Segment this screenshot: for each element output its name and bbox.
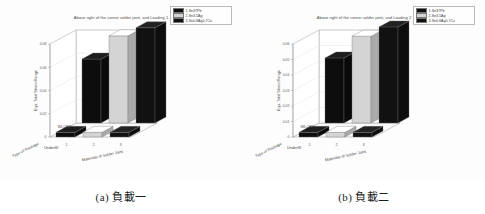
x-axis-label: Materials of Solder Joint — [324, 149, 367, 163]
z-axis-label: Type of Package — [254, 141, 282, 159]
chart-panel-b: Above right of the corner solder joint, … — [243, 0, 485, 178]
x-axis-label: Materials of Solder Joint — [81, 149, 124, 163]
chart-panel-a: Above right of the corner solder joint, … — [0, 0, 242, 178]
bar-3d — [109, 30, 139, 123]
caption-a: (a) 負載一 — [0, 188, 242, 204]
row-category-label: WLCSP — [300, 125, 314, 129]
caption-a-prefix: (a) — [96, 191, 109, 203]
y-tick-label: 0.01 — [283, 120, 290, 124]
y-axis-label: Equ. Total Strain Range — [276, 70, 281, 111]
y-tick-label: 0.05 — [283, 58, 290, 62]
plot-area-a: Above right of the corner solder joint, … — [0, 0, 242, 178]
bar-3d — [136, 22, 166, 123]
caption-b-prefix: (b) — [338, 191, 352, 203]
y-tick-label: 0.02 — [40, 112, 47, 116]
z-axis-label: Type of Package — [11, 141, 39, 159]
y-tick-label: 0.04 — [283, 73, 290, 77]
x-tick-label: 1 — [308, 143, 310, 147]
figure-captions-row: (a) 負載一 (b) 負載二 — [0, 178, 485, 214]
figure-two-panel-bar3: Above right of the corner solder joint, … — [0, 0, 485, 214]
bar-3d — [379, 21, 409, 123]
x-tick-label: 2 — [92, 143, 94, 147]
y-tick-label: 0.08 — [40, 42, 47, 46]
chart-geometry: 00.020.040.060.08Equ. Total Strain Range… — [11, 22, 166, 163]
y-tick-label: 0.04 — [40, 89, 47, 93]
bar-3d — [352, 30, 382, 123]
bar-3d — [325, 52, 355, 123]
row-category-label: Underfill — [44, 146, 58, 150]
bar-3d — [82, 53, 112, 123]
bar3-svg-b: 00.010.020.030.040.050.06Equ. Total Stra… — [243, 0, 485, 178]
caption-b: (b) 負載二 — [243, 188, 485, 204]
caption-a-text: 負載一 — [112, 191, 146, 204]
x-tick-label: 3 — [119, 143, 121, 147]
chart-geometry: 00.010.020.030.040.050.06Equ. Total Stra… — [254, 21, 409, 162]
y-tick-label: 0.02 — [283, 104, 290, 108]
row-category-label: Underfill — [287, 146, 301, 150]
bar3-scene-a: 00.020.040.060.08Equ. Total Strain Range… — [0, 0, 242, 178]
x-tick-label: 2 — [335, 143, 337, 147]
row-category-label: WLCSP — [57, 125, 71, 129]
figure-panels-row: Above right of the corner solder joint, … — [0, 0, 485, 178]
bar3-svg-a: 00.020.040.060.08Equ. Total Strain Range… — [0, 0, 242, 178]
y-tick-label: 0 — [45, 135, 47, 139]
y-tick-label: 0.03 — [283, 89, 290, 93]
y-tick-label: 0.06 — [40, 66, 47, 70]
x-tick-label: 3 — [362, 143, 364, 147]
y-tick-label: 0.06 — [283, 42, 290, 46]
y-tick-label: 0 — [288, 135, 290, 139]
caption-b-text: 負載二 — [355, 191, 389, 204]
plot-area-b: Above right of the corner solder joint, … — [243, 0, 485, 178]
x-tick-label: 1 — [65, 143, 67, 147]
y-axis-label: Equ. Total Strain Range — [33, 70, 38, 111]
bar3-scene-b: 00.010.020.030.040.050.06Equ. Total Stra… — [243, 0, 485, 178]
